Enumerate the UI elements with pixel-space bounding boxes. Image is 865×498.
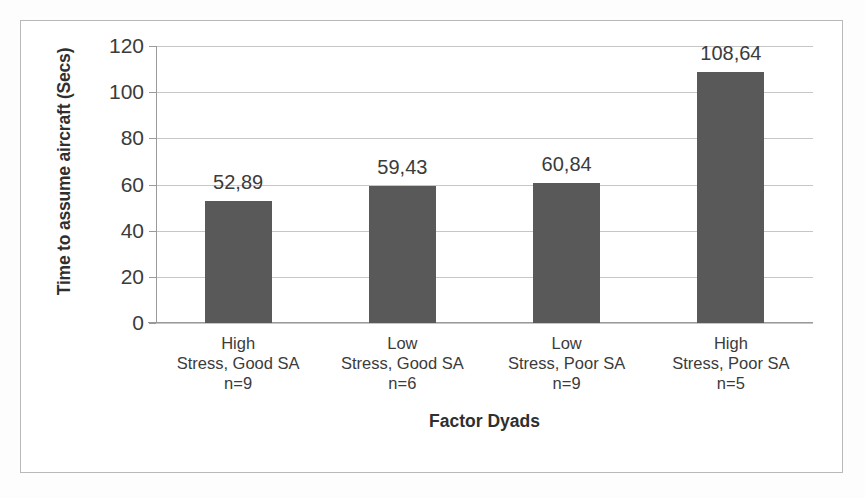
y-tick-mark [149, 277, 156, 278]
y-tick-label: 0 [132, 311, 144, 335]
bar[interactable] [205, 201, 272, 323]
x-category-label-line: n=5 [672, 373, 789, 393]
y-tick-label: 40 [121, 219, 144, 243]
x-category-label: LowStress, Poor SAn=9 [508, 333, 625, 393]
plot-area: 020406080100120 52,8959,4360,84108,64 [156, 46, 813, 323]
x-category-label: HighStress, Poor SAn=5 [672, 333, 789, 393]
y-tick-label: 120 [109, 34, 144, 58]
y-tick-mark [149, 231, 156, 232]
y-tick-label: 100 [109, 80, 144, 104]
bar-value-label: 52,89 [213, 171, 263, 194]
x-category-label-line: Low [508, 333, 625, 353]
x-category-label: LowStress, Good SAn=6 [341, 333, 464, 393]
bar-value-label: 59,43 [377, 156, 427, 179]
y-tick-label: 80 [121, 126, 144, 150]
y-tick-mark [149, 92, 156, 93]
gridline [156, 323, 813, 324]
y-tick-label: 20 [121, 265, 144, 289]
bar[interactable] [533, 183, 600, 323]
chart-frame: Time to assume aircraft (Secs) 020406080… [20, 20, 843, 473]
x-category-label: HighStress, Good SAn=9 [177, 333, 300, 393]
x-category-label-line: High [672, 333, 789, 353]
y-tick-label: 60 [121, 173, 144, 197]
bar-value-label: 108,64 [700, 42, 761, 65]
x-category-label-line: Low [341, 333, 464, 353]
x-category-label-line: n=9 [508, 373, 625, 393]
x-category-label-line: Stress, Poor SA [508, 353, 625, 373]
x-category-label-line: Stress, Good SA [177, 353, 300, 373]
x-category-label-line: Stress, Poor SA [672, 353, 789, 373]
bar[interactable] [369, 186, 436, 323]
y-tick-mark [149, 185, 156, 186]
chart-figure: Time to assume aircraft (Secs) 020406080… [0, 0, 865, 498]
x-category-label-line: n=6 [341, 373, 464, 393]
y-tick-mark [149, 46, 156, 47]
x-category-label-line: High [177, 333, 300, 353]
bar-value-label: 60,84 [542, 153, 592, 176]
bar[interactable] [697, 72, 764, 323]
x-category-label-line: n=9 [177, 373, 300, 393]
y-tick-mark [149, 138, 156, 139]
y-axis-line [156, 46, 157, 323]
x-axis-title: Factor Dyads [156, 411, 813, 432]
y-axis-title: Time to assume aircraft (Secs) [54, 32, 75, 312]
x-category-label-line: Stress, Good SA [341, 353, 464, 373]
y-tick-mark [149, 323, 156, 324]
